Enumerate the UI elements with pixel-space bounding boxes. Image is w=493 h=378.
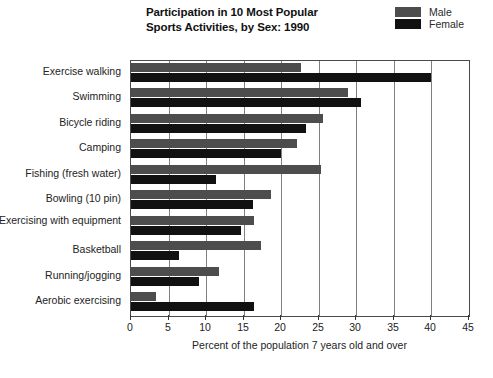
x-axis-title: Percent of the population 7 years old an… bbox=[130, 339, 469, 351]
bar-group bbox=[131, 241, 469, 261]
x-tick-45 bbox=[468, 315, 469, 320]
x-tick-label: 10 bbox=[190, 321, 220, 333]
y-axis-label: Bowling (10 pin) bbox=[0, 193, 126, 205]
bar-male bbox=[131, 114, 323, 123]
x-tick-label: 45 bbox=[453, 321, 483, 333]
bar-female bbox=[131, 277, 199, 286]
bar-group bbox=[131, 216, 469, 236]
bars-layer bbox=[131, 61, 469, 316]
x-tick-label: 35 bbox=[378, 321, 408, 333]
x-tick-40 bbox=[430, 315, 431, 320]
bar-male bbox=[131, 63, 301, 72]
y-axis-labels: Exercise walkingSwimmingBicycle ridingCa… bbox=[0, 60, 126, 315]
legend-swatch-male bbox=[395, 7, 421, 17]
bar-group bbox=[131, 63, 469, 83]
x-tick-label: 25 bbox=[303, 321, 333, 333]
chart-title: Participation in 10 Most Popular Sports … bbox=[146, 5, 386, 34]
bar-group bbox=[131, 114, 469, 134]
y-axis-label: Running/jogging bbox=[0, 270, 126, 282]
x-tick-15 bbox=[243, 315, 244, 320]
bar-male bbox=[131, 267, 219, 276]
y-axis-label: Exercising with equipment bbox=[0, 215, 126, 227]
bar-group bbox=[131, 190, 469, 210]
x-tick-0 bbox=[130, 315, 131, 320]
x-tick-label: 20 bbox=[265, 321, 295, 333]
x-tick-5 bbox=[168, 315, 169, 320]
bar-female bbox=[131, 175, 216, 184]
bar-male bbox=[131, 292, 156, 301]
bar-male bbox=[131, 216, 254, 225]
bar-group bbox=[131, 292, 469, 312]
x-tick-label: 30 bbox=[340, 321, 370, 333]
legend-swatch-female bbox=[395, 19, 421, 29]
bar-female bbox=[131, 124, 306, 133]
x-tick-label: 0 bbox=[115, 321, 145, 333]
y-axis-label: Swimming bbox=[0, 91, 126, 103]
plot-area bbox=[130, 60, 470, 317]
chart-title-line-1: Participation in 10 Most Popular bbox=[146, 5, 386, 20]
bar-female bbox=[131, 302, 254, 311]
bar-chart: Participation in 10 Most Popular Sports … bbox=[0, 0, 493, 378]
bar-female bbox=[131, 73, 431, 82]
bar-male bbox=[131, 139, 297, 148]
x-tick-25 bbox=[318, 315, 319, 320]
x-tick-30 bbox=[355, 315, 356, 320]
y-axis-label: Exercise walking bbox=[0, 66, 126, 78]
x-tick-label: 5 bbox=[153, 321, 183, 333]
bar-group bbox=[131, 139, 469, 159]
x-tick-10 bbox=[205, 315, 206, 320]
bar-female bbox=[131, 200, 253, 209]
legend-entry-male: Male bbox=[395, 6, 490, 18]
bar-group bbox=[131, 267, 469, 287]
bar-female bbox=[131, 251, 179, 260]
x-tick-label: 15 bbox=[228, 321, 258, 333]
chart-legend: Male Female bbox=[395, 6, 490, 30]
chart-title-line-2: Sports Activities, by Sex: 1990 bbox=[146, 20, 386, 35]
legend-label-male: Male bbox=[429, 6, 452, 18]
bar-male bbox=[131, 88, 348, 97]
bar-female bbox=[131, 226, 241, 235]
legend-label-female: Female bbox=[429, 18, 464, 30]
legend-entry-female: Female bbox=[395, 18, 490, 30]
bar-female bbox=[131, 98, 361, 107]
bar-female bbox=[131, 149, 281, 158]
y-axis-label: Camping bbox=[0, 142, 126, 154]
y-axis-label: Basketball bbox=[0, 244, 126, 256]
y-axis-label: Fishing (fresh water) bbox=[0, 168, 126, 180]
x-tick-35 bbox=[393, 315, 394, 320]
x-tick-label: 40 bbox=[415, 321, 445, 333]
x-tick-20 bbox=[280, 315, 281, 320]
bar-male bbox=[131, 165, 321, 174]
bar-group bbox=[131, 165, 469, 185]
bar-male bbox=[131, 190, 271, 199]
y-axis-label: Bicycle riding bbox=[0, 117, 126, 129]
x-axis-tick-labels: 051015202530354045 bbox=[0, 321, 493, 335]
y-axis-label: Aerobic exercising bbox=[0, 295, 126, 307]
bar-group bbox=[131, 88, 469, 108]
bar-male bbox=[131, 241, 261, 250]
